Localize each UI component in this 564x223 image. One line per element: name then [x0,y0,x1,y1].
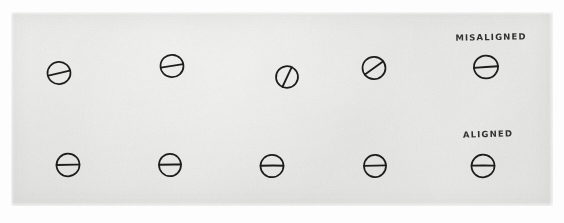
circle-bar-4 [358,149,392,183]
slash-line [48,71,69,76]
circle-bar-5 [466,149,500,183]
misaligned-label: MISALIGNED [455,31,527,42]
circle-slash-5 [468,49,504,85]
slash-line [282,67,291,87]
paper-edge-left [11,12,14,206]
aligned-label: ALIGNED [463,128,513,139]
sketch-photo-scene: MISALIGNED ALIGNED [0,0,564,223]
circle-slash-3 [270,60,304,94]
paper-edge-bottom [11,202,553,206]
circle-slash-2 [155,49,189,83]
circle-slash-1 [42,56,76,90]
circle-slash-4 [357,51,391,85]
circle-bar-3 [255,149,289,183]
circle-bar-1 [51,148,85,182]
slash-line [474,66,498,68]
paper-edge-right [549,12,553,206]
circle-bar-2 [153,148,187,182]
slash-line [161,64,183,67]
bar-line [364,165,386,166]
slash-line [365,61,383,74]
paper-edge-top [11,12,553,15]
